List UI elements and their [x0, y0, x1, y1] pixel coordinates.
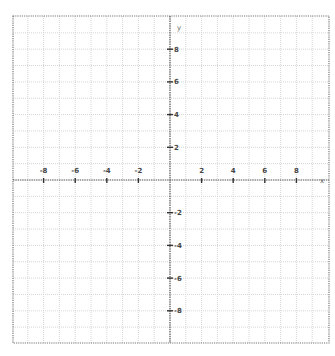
y-axis-label: y	[177, 24, 181, 32]
x-tick-label: -2	[135, 167, 143, 175]
y-tick-label: 4	[174, 111, 179, 119]
x-tick-label: -4	[103, 167, 111, 175]
x-tick-label: 6	[262, 167, 267, 175]
y-tick-label: -2	[174, 209, 182, 217]
x-tick-label: 8	[294, 167, 299, 175]
x-tick-label: 4	[231, 167, 236, 175]
x-axis-label: x	[320, 177, 324, 185]
y-tick-label: -4	[174, 242, 182, 250]
y-tick-label: 6	[174, 78, 179, 86]
x-tick-label: 2	[199, 167, 204, 175]
x-tick-label: -6	[71, 167, 79, 175]
x-axis-ticks: -8-6-4-22468	[40, 167, 299, 183]
coordinate-plane: -8-6-4-22468 8642-2-4-6-8 x y	[0, 0, 335, 356]
y-tick-label: -6	[174, 275, 182, 283]
y-tick-label: 2	[174, 144, 179, 152]
y-tick-label: -8	[174, 307, 182, 315]
x-tick-label: -8	[40, 167, 48, 175]
y-tick-label: 8	[174, 46, 179, 54]
